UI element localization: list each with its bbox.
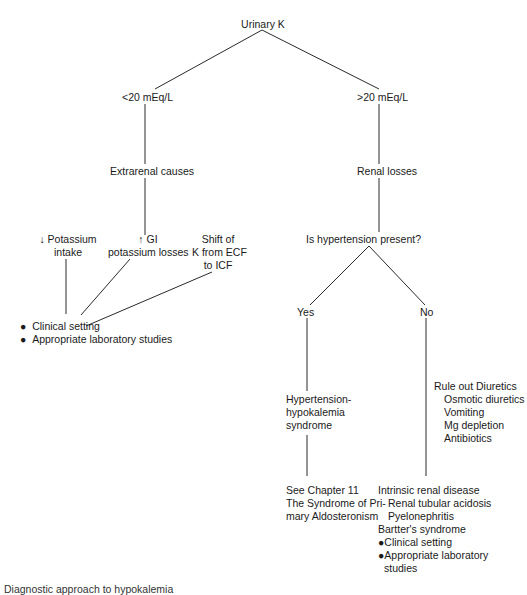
cause-line: potassium losses <box>108 246 188 259</box>
yes-node: Yes <box>297 306 314 319</box>
low-threshold-node: <20 mEq/L <box>122 91 173 104</box>
cause-line: K from ECF <box>192 246 244 259</box>
hypertension-hypokalemia-node: Hypertension- hypokalemia syndrome <box>286 393 351 432</box>
result-line: Hypertension- <box>286 393 351 406</box>
cause-line: Shift of <box>192 233 244 246</box>
aldosteronism-reference-node: See Chapter 11 The Syndrome of Pri- mary… <box>286 484 386 523</box>
bartter-syndrome: Bartter's syndrome <box>378 523 491 536</box>
reference-line: The Syndrome of Pri- <box>286 497 386 510</box>
root-node: Urinary K <box>232 18 294 31</box>
cause-gi-losses: ↑ GI potassium losses <box>108 233 188 259</box>
renal-losses-node: Renal losses <box>357 165 417 178</box>
workup-item: ● Clinical setting <box>20 320 172 333</box>
reference-line: See Chapter 11 <box>286 484 386 497</box>
rule-out-item: Mg depletion <box>434 419 525 432</box>
bullet-icon: ● <box>20 320 32 332</box>
no-node: No <box>420 306 433 319</box>
intrinsic-item: Renal tubular acidosis <box>378 497 491 510</box>
cause-potassium-intake: ↓ Potassium intake <box>38 233 98 259</box>
bullet-icon: ● <box>20 333 32 345</box>
cause-line: ↓ Potassium <box>38 233 98 246</box>
hypertension-question-node: Is hypertension present? <box>306 233 421 246</box>
workup-item: ●Appropriate laboratory <box>378 549 491 562</box>
workup-item: ●Clinical setting <box>378 536 491 549</box>
rule-out-item: Osmotic diuretics <box>434 393 525 406</box>
cause-line: to ICF <box>192 259 244 272</box>
result-line: syndrome <box>286 419 351 432</box>
high-threshold-node: >20 mEq/L <box>357 91 408 104</box>
cause-line: ↑ GI <box>108 233 188 246</box>
rule-out-item: Vomiting <box>434 406 525 419</box>
reference-line: mary Aldosteronism <box>286 510 386 523</box>
rule-out-node: Rule out Diuretics Osmotic diuretics Vom… <box>434 380 525 445</box>
intrinsic-renal-node: Intrinsic renal disease Renal tubular ac… <box>378 484 491 575</box>
low-workup-list: ● Clinical setting ● Appropriate laborat… <box>20 320 172 346</box>
result-line: hypokalemia <box>286 406 351 419</box>
workup-item: studies <box>378 562 491 575</box>
intrinsic-title: Intrinsic renal disease <box>378 484 491 497</box>
rule-out-title: Rule out Diuretics <box>434 380 525 393</box>
workup-item: ● Appropriate laboratory studies <box>20 333 172 346</box>
cause-line: intake <box>38 246 98 259</box>
rule-out-item: Antibiotics <box>434 432 525 445</box>
intrinsic-item: Pyelonephritis <box>378 510 491 523</box>
cause-shift-ecf-icf: Shift of K from ECF to ICF <box>192 233 244 272</box>
extrarenal-causes-node: Extrarenal causes <box>110 165 194 178</box>
figure-caption: Diagnostic approach to hypokalemia <box>4 583 173 595</box>
